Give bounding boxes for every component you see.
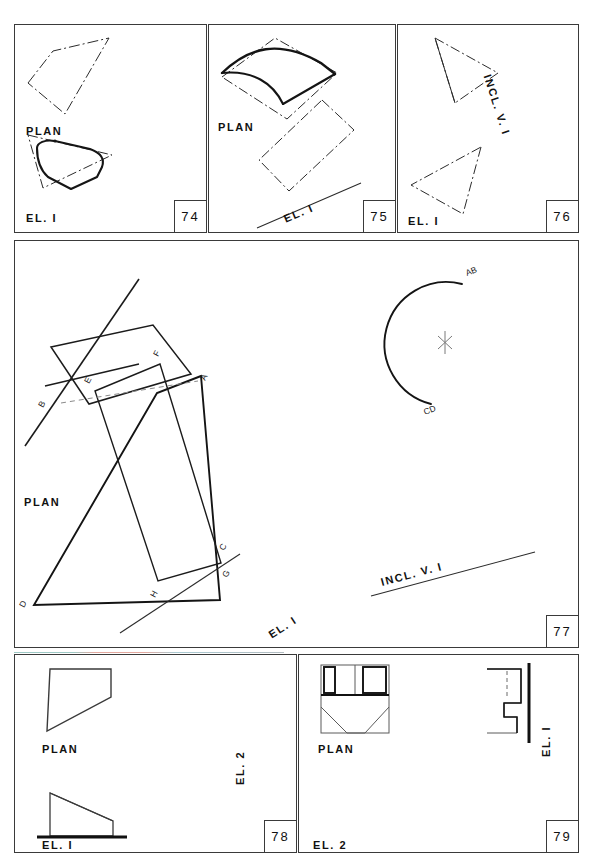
dihedral-angle-arc <box>385 282 462 404</box>
panel-77: A B C D E F G H AB CD PLAN EL. I INCL. V… <box>14 240 579 648</box>
panel-76-el1-label: EL. I <box>408 215 439 227</box>
el1-rectangle-dashdot <box>259 100 354 191</box>
panel-77-plan-label: PLAN <box>24 496 60 508</box>
center-cross-mark <box>438 331 452 354</box>
plan-curved-vault-lower-edge <box>222 73 283 104</box>
vertex-label-g: G <box>220 568 232 579</box>
panel-74-plan-label: PLAN <box>26 125 62 137</box>
arc-label-cd: CD <box>422 403 437 417</box>
vertex-label-h: H <box>148 589 160 599</box>
el1-tangent-point <box>53 139 56 142</box>
plan-curved-vault-solid <box>222 49 335 74</box>
plan-trapezoid <box>47 669 111 731</box>
panel-77-number-box: 77 <box>546 615 579 648</box>
el1-triangle-dashdot <box>411 147 481 214</box>
panel-75-number: 75 <box>370 209 388 224</box>
el1-stepped-profile <box>487 669 521 733</box>
panel-74: PLAN EL. I 74 <box>14 24 207 233</box>
vertex-label-f: F <box>151 349 162 358</box>
panel-79-el2-label: EL. 2 <box>313 839 347 851</box>
panel-79-number-box: 79 <box>546 820 579 853</box>
panel-74-number: 74 <box>181 209 199 224</box>
el1-closed-curve-solid <box>37 140 103 189</box>
panel-78-el1-label: EL. I <box>42 839 73 851</box>
panel-76: INCL. V. I EL. I 76 <box>397 24 579 233</box>
plan-left-slot <box>324 667 335 693</box>
plan-parallelogram-solid <box>51 325 191 404</box>
plan-quadrilateral-dashdot <box>28 38 109 114</box>
drawing-sheet: PLAN EL. I 74 PLAN EL. I 75 <box>0 0 590 853</box>
panel-75-plan-label: PLAN <box>218 121 254 133</box>
plan-parallelogram-dashdot <box>222 38 337 119</box>
panel-79-number: 79 <box>553 829 571 844</box>
panel-77-number: 77 <box>553 624 571 639</box>
panel-79-el1-label: EL. I <box>540 726 552 757</box>
panel-76-number-box: 76 <box>546 200 579 233</box>
vertex-label-a: A <box>198 372 210 382</box>
el1-stepped-profile-thick <box>487 669 521 733</box>
scan-tint-artifact <box>14 652 284 653</box>
panel-75: PLAN EL. I 75 <box>208 24 396 233</box>
el1-triangle-hypotenuse <box>50 793 113 821</box>
panel-78-el2-label: EL. 2 <box>234 751 246 785</box>
el1-ground-line <box>120 554 240 633</box>
plan-curved-vault-right-edge <box>283 74 335 104</box>
plan-short-trace-line <box>45 364 139 386</box>
panel-74-el1-label: EL. I <box>26 212 57 224</box>
plan-right-slot <box>363 667 386 693</box>
panel-79: PLAN EL. I EL. 2 79 <box>298 654 579 853</box>
panel-78-plan-label: PLAN <box>42 743 78 755</box>
vertex-label-d: D <box>17 599 29 609</box>
arc-label-ab: AB <box>464 264 479 278</box>
panel-75-number-box: 75 <box>363 200 396 233</box>
panel-74-number-box: 74 <box>174 200 207 233</box>
el1-right-triangle <box>50 793 113 836</box>
vertex-label-c: C <box>217 542 229 552</box>
panel-77-drawing: A B C D E F G H AB CD <box>15 241 578 647</box>
plan-intersecting-line <box>25 279 139 446</box>
panel-78-number: 78 <box>271 829 289 844</box>
vertex-label-b: B <box>36 399 48 409</box>
plan-chamfer-v <box>321 707 389 733</box>
panel-79-plan-label: PLAN <box>318 743 354 755</box>
panel-78-number-box: 78 <box>264 820 297 853</box>
panel-78: PLAN EL. I EL. 2 78 <box>14 654 297 853</box>
panel-76-number: 76 <box>553 209 571 224</box>
